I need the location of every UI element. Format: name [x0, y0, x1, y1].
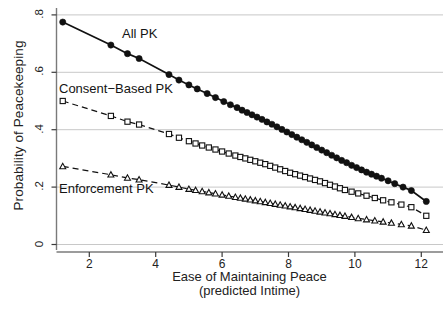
data-point	[124, 51, 130, 57]
data-point	[220, 149, 225, 154]
series-1	[60, 19, 430, 205]
data-point	[322, 180, 327, 185]
data-point	[332, 211, 338, 216]
data-point	[176, 135, 181, 140]
data-point	[258, 160, 263, 165]
x-axis-tick-label: 8	[277, 257, 301, 271]
data-point	[297, 205, 303, 210]
data-point	[226, 193, 232, 198]
data-point	[166, 131, 171, 136]
data-point	[238, 154, 243, 159]
data-point	[262, 199, 268, 204]
data-point	[277, 202, 283, 207]
data-point	[423, 227, 429, 232]
data-point	[337, 212, 343, 217]
y-axis-tick-label: 0	[33, 233, 45, 255]
x-axis-tick-label: 6	[210, 257, 234, 271]
data-point	[408, 187, 414, 193]
y-axis-title-container: Probability of Peacekeeping	[0, 0, 36, 250]
data-point	[193, 141, 198, 146]
data-point	[108, 42, 114, 48]
data-point	[399, 202, 404, 207]
data-point	[232, 194, 238, 199]
data-point	[381, 198, 386, 203]
data-point	[356, 191, 361, 196]
y-axis-tick-label: .6	[33, 60, 45, 82]
data-point	[302, 206, 308, 211]
data-point	[342, 213, 348, 218]
data-point	[186, 82, 192, 88]
data-point	[176, 184, 182, 189]
data-point	[409, 205, 414, 210]
series-label-all-pk: All PK	[122, 26, 157, 41]
data-point	[378, 175, 384, 181]
data-point	[283, 168, 288, 173]
data-point	[206, 189, 212, 194]
y-axis-tick-label: .4	[33, 118, 45, 140]
data-point	[221, 98, 227, 104]
data-point	[408, 223, 414, 228]
gridlines	[57, 15, 443, 245]
data-point	[292, 204, 298, 209]
data-point	[327, 182, 332, 187]
data-point	[268, 163, 273, 168]
data-point	[125, 119, 130, 124]
data-point	[233, 153, 238, 158]
data-point	[252, 197, 258, 202]
data-point	[227, 102, 233, 108]
data-point	[237, 195, 243, 200]
data-point	[243, 156, 248, 161]
data-point	[194, 86, 200, 92]
data-point	[337, 186, 342, 191]
data-point	[372, 195, 377, 200]
data-point	[267, 200, 273, 205]
data-point	[293, 172, 298, 177]
data-point	[282, 203, 288, 208]
data-point	[332, 184, 337, 189]
data-point	[303, 174, 308, 179]
data-point	[298, 173, 303, 178]
data-point	[257, 198, 263, 203]
data-point	[317, 209, 323, 214]
data-point	[385, 178, 391, 184]
data-point	[108, 113, 113, 118]
x-axis-tick-label: 4	[144, 257, 168, 271]
data-point	[342, 187, 347, 192]
x-axis-title-line1: Ease of Maintaining Peace	[172, 269, 327, 284]
data-point	[193, 187, 199, 192]
data-point	[212, 94, 218, 100]
data-point	[108, 172, 114, 177]
data-point	[212, 191, 218, 196]
data-point	[247, 197, 253, 202]
data-point	[349, 214, 355, 219]
x-axis-tick-label: 10	[343, 257, 367, 271]
data-point	[372, 218, 378, 223]
data-point	[349, 189, 354, 194]
data-point	[392, 181, 398, 187]
data-point	[389, 200, 394, 205]
data-point	[200, 143, 205, 148]
data-point	[206, 145, 211, 150]
data-point	[327, 210, 333, 215]
data-point	[400, 184, 406, 190]
data-point	[317, 179, 322, 184]
data-point	[166, 71, 172, 77]
series-label-consent-based-pk: Consent−Based PK	[59, 81, 173, 96]
data-point	[288, 170, 293, 175]
data-point	[364, 193, 369, 198]
data-point	[287, 204, 293, 209]
data-point	[60, 98, 65, 103]
series-label-enforcement-pk: Enforcement PK	[59, 181, 154, 196]
data-point	[307, 176, 312, 181]
data-point	[263, 162, 268, 167]
data-point	[424, 213, 429, 218]
data-point	[199, 188, 205, 193]
data-point	[398, 221, 404, 226]
data-point	[253, 159, 258, 164]
data-point	[60, 163, 66, 168]
data-point	[380, 219, 386, 224]
data-point	[355, 215, 361, 220]
y-axis-tick-label: .2	[33, 175, 45, 197]
data-point	[186, 139, 191, 144]
data-point	[248, 157, 253, 162]
